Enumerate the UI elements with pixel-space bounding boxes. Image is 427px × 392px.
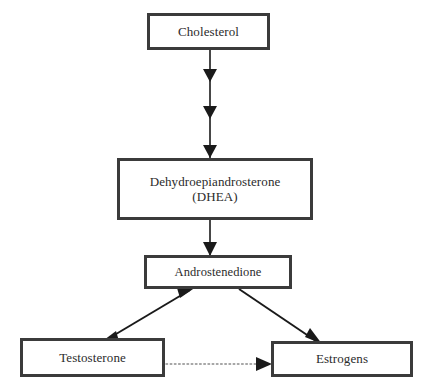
node-label-androstenedione: Androstenedione [171,265,266,280]
node-androstenedione[interactable]: Androstenedione [144,255,292,289]
arrowhead-3 [203,145,217,158]
node-label-testosterone: Testosterone [55,350,130,365]
edge-androstenedione-testosterone [100,287,196,343]
node-testosterone[interactable]: Testosterone [20,338,165,377]
arrowhead-2 [203,106,217,119]
node-label-cholesterol: Cholesterol [174,24,243,39]
edge-line [106,290,190,340]
edge-dhea-to-androstenedione [203,220,217,256]
arrowhead-1 [203,242,217,256]
arrowhead-1 [203,69,217,82]
node-estrogens[interactable]: Estrogens [271,341,413,377]
node-label-estrogens: Estrogens [312,351,372,366]
node-dhea[interactable]: Dehydroepiandrosterone (DHEA) [117,158,313,220]
edge-line [239,289,316,341]
node-label-dhea: Dehydroepiandrosterone (DHEA) [146,174,285,205]
arrowhead-right [256,357,272,371]
edge-testosterone-to-estrogens [166,357,272,371]
node-cholesterol[interactable]: Cholesterol [147,13,270,50]
edge-cholesterol-to-dhea [203,50,217,158]
edge-androstenedione-to-estrogens [239,289,322,344]
diagram-canvas: Cholesterol Dehydroepiandrosterone (DHEA… [0,0,427,392]
